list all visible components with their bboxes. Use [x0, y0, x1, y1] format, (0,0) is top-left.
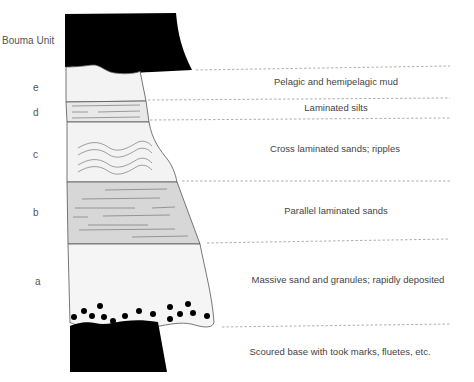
unit-letter-c: c — [33, 149, 38, 160]
unit-e-description: Pelagic and hemipelagic mud — [274, 76, 398, 87]
unit-a-description: Massive sand and granules; rapidly depos… — [252, 274, 445, 285]
unit-b-description: Parallel laminated sands — [284, 205, 388, 216]
base-description: Scoured base with took marks, fluetes, e… — [249, 346, 430, 357]
diagram-title: Bouma Unit — [2, 35, 54, 46]
unit-letter-b: b — [33, 207, 39, 218]
mud-cap-black — [65, 13, 192, 74]
bouma-sequence-diagram — [0, 0, 474, 382]
unit-letter-e: e — [33, 82, 39, 93]
scoured-base-black — [70, 320, 167, 372]
unit-b-layer — [67, 182, 200, 244]
unit-letter-a: a — [35, 276, 41, 287]
unit-letter-d: d — [33, 107, 39, 118]
unit-d-description: Laminated silts — [304, 102, 367, 113]
unit-c-description: Cross laminated sands; ripples — [270, 143, 400, 154]
